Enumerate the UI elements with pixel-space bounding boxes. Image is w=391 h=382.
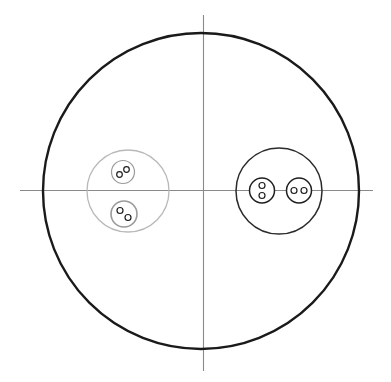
left-cluster-upper-circle-outline — [112, 161, 135, 184]
figure-container — [0, 0, 391, 382]
axis-group — [20, 15, 373, 371]
right-cluster-right-circle-dot-b — [301, 188, 307, 194]
left-cluster-lower-circle-dot-b — [125, 215, 131, 221]
left-cluster-upper-circle-dot-b — [124, 167, 130, 173]
left-cluster-upper-circle-dot-a — [117, 172, 123, 178]
right-cluster-left-circle-outline — [250, 178, 275, 203]
left-cluster-upper-circle — [112, 161, 135, 184]
left-cluster-lower-circle — [111, 201, 137, 227]
circle-diagram — [0, 0, 391, 382]
right-cluster-left-circle — [250, 178, 275, 203]
right-cluster-left-circle-dot-a — [259, 183, 265, 189]
right-cluster-left-circle-dot-b — [259, 193, 265, 199]
right-cluster-right-circle-dot-a — [291, 188, 297, 194]
left-cluster-lower-circle-dot-a — [117, 208, 123, 214]
right-cluster-right-circle-outline — [287, 178, 312, 203]
right-cluster-right-circle — [287, 178, 312, 203]
left-cluster-lower-circle-outline — [111, 201, 137, 227]
